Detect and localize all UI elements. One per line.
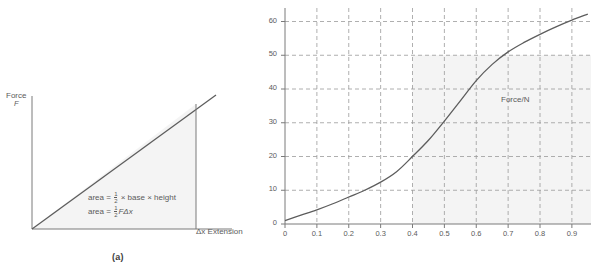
plot-area-tint (413, 55, 592, 224)
y-tick-label: 10 (259, 185, 277, 193)
figure-root: Force F Δx Extension area = 12 × base × … (0, 0, 595, 274)
panel-a: Force F Δx Extension area = 12 × base × … (0, 0, 265, 274)
x-tick-label: 0 (275, 230, 295, 238)
panel-a-x-axis-name: Extension (208, 227, 243, 236)
panel-a-caption: (a) (112, 252, 124, 262)
area-equation-specific: area = 12FΔx (88, 205, 133, 218)
half-fraction-2: 12 (114, 205, 117, 218)
half-denominator-2: 2 (114, 211, 117, 218)
y-tick-label: 50 (259, 50, 277, 58)
y-tick-label: 0 (259, 219, 277, 227)
half-fraction-1: 12 (114, 191, 117, 204)
x-tick-label: 0.6 (466, 230, 486, 238)
half-numerator-1: 1 (114, 191, 117, 197)
x-tick-label: 0.3 (371, 230, 391, 238)
x-tick-label: 0.1 (307, 230, 327, 238)
x-tick-label: 0.5 (434, 230, 454, 238)
panel-b: 0102030405060 00.10.20.30.40.50.60.70.80… (255, 0, 595, 274)
area-equation-specific-tail: FΔx (118, 207, 132, 216)
x-tick-label: 0.8 (530, 230, 550, 238)
y-tick-label: 40 (259, 84, 277, 92)
y-tick-label: 60 (259, 17, 277, 25)
x-tick-label: 0.7 (498, 230, 518, 238)
x-tick-label: 0.9 (562, 230, 582, 238)
x-tick-label: 0.2 (339, 230, 359, 238)
area-equation-general-lead: area = (88, 193, 113, 202)
panel-a-y-axis-label: Force F (6, 92, 26, 108)
x-tick-label: 0.4 (403, 230, 423, 238)
half-denominator-1: 2 (114, 197, 117, 204)
area-equation-general-tail: × base × height (118, 193, 175, 202)
panel-b-y-axis-label: Force/N (501, 96, 529, 104)
panel-a-x-axis-label: Δx Extension (196, 228, 243, 236)
half-numerator-2: 1 (114, 205, 117, 211)
y-tick-label: 30 (259, 118, 277, 126)
panel-a-y-axis-label-sub: F (6, 100, 26, 108)
delta-x-marker: Δx (196, 227, 205, 236)
y-tick-label: 20 (259, 152, 277, 160)
area-equation-specific-lead: area = (88, 207, 113, 216)
area-equation-general: area = 12 × base × height (88, 191, 176, 204)
